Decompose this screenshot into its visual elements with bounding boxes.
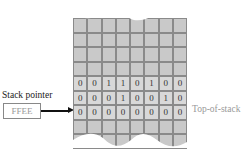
- top-of-stack-label: Top-of-stack: [192, 104, 240, 114]
- stack-pointer-label: Stack pointer: [2, 90, 52, 100]
- stack-pointer-register: FFEE: [3, 103, 41, 119]
- pointer-arrow: [41, 110, 69, 112]
- memory-block: 001101000001001000000000: [73, 8, 187, 148]
- torn-edges: [73, 8, 187, 148]
